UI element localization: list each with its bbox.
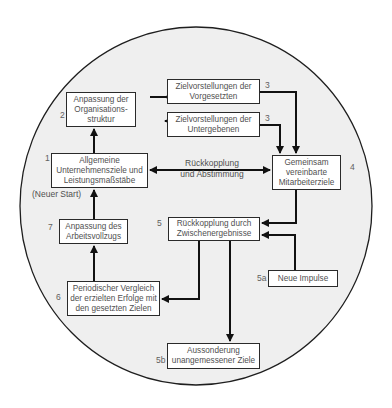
node-3b-untergebene: Zielvorstellungen der Untergebenen xyxy=(167,112,260,137)
node-7-arbeitsvollzug: Anpassung des Arbeitsvollzugs xyxy=(59,219,128,244)
node-2-number: 2 xyxy=(60,110,65,120)
node-5b-aussonderung: Aussonderung unangemessener Ziele xyxy=(167,343,260,369)
node-4-number: 4 xyxy=(350,162,355,172)
node-3a-number: 3 xyxy=(265,80,270,90)
node-5b-number: 5b xyxy=(156,355,165,365)
node-5a-neue-impulse: Neue Impulse xyxy=(268,270,338,287)
node-3a-vorgesetzte: Zielvorstellungen der Vorgesetzten xyxy=(167,79,260,104)
node-7-number: 7 xyxy=(48,222,53,232)
node-2-organisation: Anpassung der Organisations- struktur xyxy=(66,92,136,127)
node-6-periodischer-vergleich: Periodischer Vergleich der erzielten Erf… xyxy=(67,281,160,316)
node-1-unternehmensziele: Allgemeine Unternehmensziele und Leistun… xyxy=(51,153,148,188)
node-1-number: 1 xyxy=(45,153,50,163)
node-5a-number: 5a xyxy=(257,273,266,283)
node-3b-number: 3 xyxy=(265,113,270,123)
node-4-mitarbeiterziele: Gemeinsam vereinbarte Mitarbeiterziele xyxy=(272,155,341,190)
node-5-number: 5 xyxy=(157,218,162,228)
feedback-label: Rückkopplung und Abstimmung xyxy=(170,158,254,180)
node-5-zwischenergebnisse: Rückkopplung durch Zwischenergebnisse xyxy=(168,217,260,241)
restart-label: (Neuer Start) xyxy=(32,189,81,200)
node-6-number: 6 xyxy=(56,292,61,302)
